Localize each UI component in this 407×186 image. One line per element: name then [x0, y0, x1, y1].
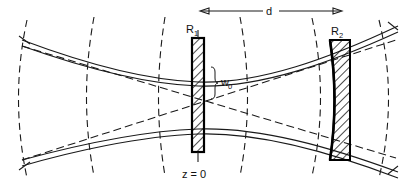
wavefront-4-arc — [240, 17, 248, 176]
mirror-R1-label-group: R 1 — [186, 23, 198, 38]
beam-waist-label-subscript: 0 — [228, 82, 232, 91]
mirror-R1[interactable] — [192, 30, 204, 162]
mirror-R2-label-group: R 2 — [331, 25, 343, 40]
mirror-R1-label: R — [186, 23, 194, 35]
tick-right-bottom — [388, 166, 398, 174]
mirror-R2-label-subscript: 2 — [339, 31, 343, 40]
mirror-R2[interactable] — [330, 40, 350, 160]
wavefront-3-arc — [159, 17, 166, 176]
wavefront-1-arc — [19, 20, 28, 178]
optical-resonator-figure: d R 1 R 2 w 0 z = 0 — [0, 0, 407, 186]
tick-left-top — [19, 36, 30, 44]
mirror-R1-body — [192, 38, 204, 152]
separation-dimension: d — [200, 4, 342, 18]
resonator-diagram-canvas: d R 1 R 2 w 0 z = 0 — [0, 0, 407, 186]
mirror-R1-label-subscript: 1 — [194, 29, 198, 38]
waist-annotation-group: w 0 — [211, 67, 232, 99]
wavefront-2-arc — [87, 17, 95, 176]
origin-annotation-group: z = 0 — [182, 168, 206, 180]
separation-label: d — [266, 5, 272, 17]
brace-icon — [211, 67, 218, 99]
mirror-R2-label: R — [331, 25, 339, 37]
origin-label: z = 0 — [182, 168, 206, 180]
